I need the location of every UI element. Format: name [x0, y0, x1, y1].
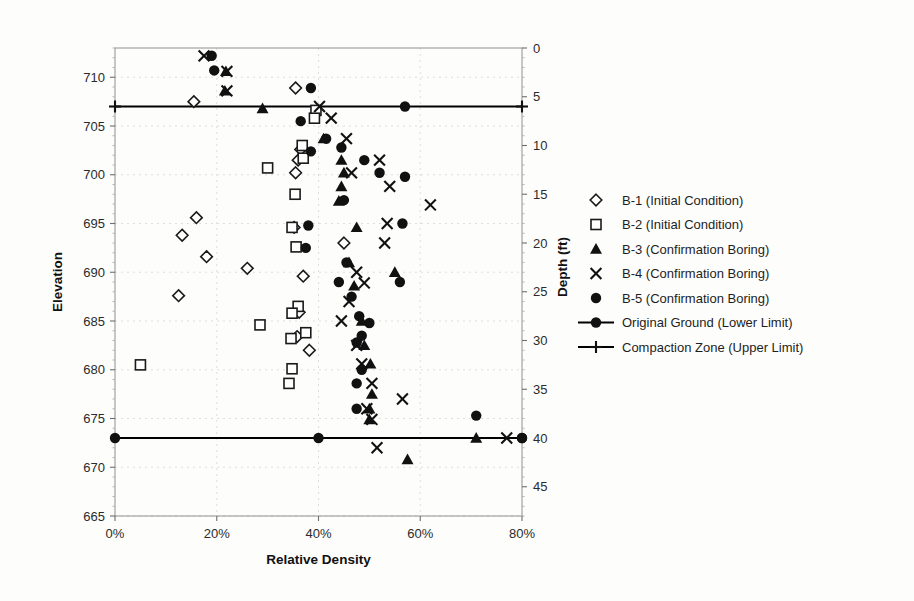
y-tick-label: 670 [83, 460, 105, 475]
scatter-chart: 665670675680685690695700705710Elevation0… [0, 0, 914, 601]
legend-item[interactable]: Compaction Zone (Upper Limit) [578, 340, 803, 355]
legend-item[interactable]: B-1 (Initial Condition) [590, 193, 743, 208]
legend-item[interactable]: B-5 (Confirmation Boring) [591, 291, 770, 306]
data-point [374, 155, 385, 166]
series-1 [173, 82, 350, 356]
data-point [291, 242, 301, 252]
data-point [326, 113, 337, 124]
data-point [591, 268, 602, 279]
legend-item[interactable]: B-3 (Confirmation Boring) [590, 242, 769, 257]
data-point [290, 167, 302, 179]
legend-label: B-3 (Confirmation Boring) [622, 242, 769, 257]
y2-tick-label: 0 [533, 41, 540, 56]
data-point [287, 364, 297, 374]
data-point [359, 155, 369, 165]
data-point [297, 141, 307, 151]
y-axis-title: Elevation [50, 252, 65, 312]
data-point [286, 334, 296, 344]
y2-tick-label: 30 [533, 333, 547, 348]
data-point [301, 243, 311, 253]
data-point [372, 442, 383, 453]
data-point [341, 257, 351, 267]
data-point [303, 220, 313, 230]
y-tick-label: 690 [83, 265, 105, 280]
data-point [284, 378, 294, 388]
data-point [348, 280, 360, 291]
x-tick-label: 60% [407, 526, 433, 541]
data-point [176, 229, 188, 241]
x-tick-label: 40% [305, 526, 331, 541]
x-tick-label: 0% [106, 526, 125, 541]
data-point [335, 154, 347, 165]
data-point [201, 251, 213, 263]
legend-label: Original Ground (Lower Limit) [622, 315, 793, 330]
y2-axis-title: Depth (ft) [555, 237, 570, 297]
data-point [425, 200, 436, 211]
data-point [290, 82, 302, 94]
x-tick-label: 20% [204, 526, 230, 541]
data-point [351, 337, 361, 347]
data-point [173, 290, 185, 302]
data-point [351, 267, 362, 278]
data-point [590, 243, 602, 254]
y2-tick-label: 35 [533, 382, 547, 397]
data-point [357, 365, 367, 375]
data-point [334, 277, 344, 287]
data-point [206, 51, 216, 61]
data-point [374, 168, 384, 178]
data-point [287, 308, 297, 318]
data-point [110, 433, 120, 443]
data-point [346, 291, 356, 301]
chart-canvas: 665670675680685690695700705710Elevation0… [0, 0, 914, 601]
data-point [351, 221, 363, 232]
data-point [287, 222, 297, 232]
data-point [367, 378, 378, 389]
data-point [335, 180, 347, 191]
y2-tick-label: 45 [533, 479, 547, 494]
data-point [257, 102, 269, 113]
data-point [263, 163, 273, 173]
legend-item[interactable]: B-2 (Initial Condition) [591, 217, 743, 232]
legend-item[interactable]: B-4 (Confirmation Boring) [591, 266, 770, 281]
y2-tick-label: 40 [533, 431, 547, 446]
data-point [400, 101, 410, 111]
series-5 [206, 51, 527, 444]
data-point [516, 101, 528, 113]
data-point [351, 404, 361, 414]
data-point [351, 378, 361, 388]
series-4 [199, 50, 513, 453]
data-point [109, 101, 121, 113]
y2-tick-label: 15 [533, 187, 547, 202]
y2-tick-label: 10 [533, 138, 547, 153]
data-point [209, 65, 219, 75]
y-tick-label: 665 [83, 509, 105, 524]
legend: B-1 (Initial Condition)B-2 (Initial Cond… [578, 193, 803, 355]
data-point [359, 278, 370, 289]
legend-item[interactable]: Original Ground (Lower Limit) [578, 315, 793, 330]
data-point [301, 328, 311, 338]
data-point [290, 189, 300, 199]
y-tick-label: 705 [83, 119, 105, 134]
data-point [364, 318, 374, 328]
y-tick-label: 695 [83, 216, 105, 231]
data-point [321, 133, 331, 143]
y2-tick-label: 5 [533, 89, 540, 104]
series-2 [135, 105, 321, 388]
data-point [191, 212, 203, 224]
data-point [306, 83, 316, 93]
legend-label: B-1 (Initial Condition) [622, 193, 743, 208]
data-point [382, 218, 393, 229]
data-point [395, 277, 405, 287]
data-point [590, 194, 602, 206]
data-point [135, 360, 145, 370]
y-tick-label: 710 [83, 70, 105, 85]
data-point [517, 433, 527, 443]
data-point [336, 142, 346, 152]
data-point [338, 237, 350, 249]
x-axis-title: Relative Density [266, 552, 371, 567]
data-point [590, 341, 602, 353]
data-point [255, 320, 265, 330]
data-point [295, 116, 305, 126]
data-point [339, 195, 349, 205]
data-point [306, 146, 316, 156]
